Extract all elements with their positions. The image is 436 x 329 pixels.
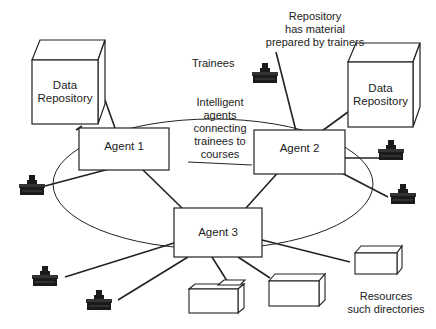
diagram-canvas	[0, 0, 436, 329]
repository-note-line2: has material	[250, 23, 380, 36]
trainees-label: Trainees	[192, 57, 242, 70]
center-note-line2: agents	[180, 109, 260, 122]
repository-note-line3: prepared by trainers	[250, 36, 380, 49]
agent-1-label: Agent 1	[79, 140, 169, 153]
repository-note: Repository has material prepared by trai…	[250, 10, 380, 49]
trainee-icon	[19, 175, 45, 195]
resource-box-2	[269, 274, 325, 306]
center-note-line1: Intelligent	[180, 96, 260, 109]
repo-right-line1: Data	[348, 82, 413, 95]
repo-right-line2: Repository	[348, 95, 413, 108]
resource-box-1	[189, 284, 244, 313]
trainee-icon	[378, 140, 404, 160]
agent-3-label: Agent 3	[174, 226, 262, 239]
resources-note: Resources such directories	[336, 290, 436, 316]
trainee-icon	[252, 63, 278, 83]
repo-right-label: Data Repository	[348, 82, 413, 108]
center-note: Intelligent agents connecting trainees t…	[180, 96, 260, 161]
trainee-icon	[390, 184, 416, 204]
center-note-line3: connecting	[180, 122, 260, 135]
trainee-icon	[32, 266, 58, 286]
center-note-line4: trainees to	[180, 135, 260, 148]
repository-note-line1: Repository	[250, 10, 380, 23]
resources-note-line1: Resources	[336, 290, 436, 303]
resource-box-4	[218, 280, 245, 285]
repo-left-label: Data Repository	[32, 79, 98, 105]
repo-left-line1: Data	[32, 79, 98, 92]
resource-box-3	[355, 246, 402, 274]
center-note-line5: courses	[180, 148, 260, 161]
repo-left-line2: Repository	[32, 92, 98, 105]
trainee-icon	[86, 290, 112, 310]
resources-note-line2: such directories	[336, 303, 436, 316]
agent-2-label: Agent 2	[254, 142, 345, 155]
